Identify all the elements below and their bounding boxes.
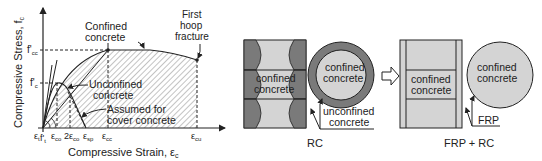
x-axis-label: Compressive Strain, εc: [68, 146, 179, 159]
label-unconfined-2: concrete: [93, 89, 133, 101]
tick-ecu: εcu: [191, 131, 201, 142]
tick-fc: f'c: [30, 77, 38, 89]
label-fracture: fracture: [175, 31, 209, 42]
frp-callout: FRP: [478, 114, 499, 126]
frp-rc-diagram: confined concrete confined concrete FRP …: [400, 40, 533, 149]
label-confined-2: concrete: [85, 31, 125, 43]
tick-ecc: εcc: [102, 131, 112, 142]
label-hoop: hoop: [180, 20, 203, 31]
tick-ft: f't: [40, 133, 46, 144]
tick-esp: εsp: [83, 131, 94, 142]
tick-fcc: f'cc: [27, 44, 38, 56]
transform-arrow-icon: [382, 67, 399, 85]
frp-label: FRP + RC: [444, 137, 494, 149]
stress-strain-chart: Compressive Stress, fc Compressive Strai…: [12, 8, 225, 159]
tick-2eco: 2εco: [64, 131, 80, 142]
frp-inner-2: concrete: [411, 84, 451, 96]
rc-label: RC: [307, 137, 323, 149]
rc-callout-2: concrete: [329, 116, 369, 128]
frp-circle-2: concrete: [477, 72, 517, 84]
label-first: First: [182, 9, 202, 20]
label-cover: cover concrete: [107, 114, 176, 126]
rc-circle-2: concrete: [323, 72, 363, 84]
rc-diagram: confined concrete confined concrete unco…: [244, 40, 375, 149]
y-axis-label: Compressive Stress, fc: [12, 16, 25, 128]
tick-eco: εco: [51, 131, 62, 142]
rc-inner-2: concrete: [254, 83, 294, 95]
figure: Compressive Stress, fc Compressive Strai…: [0, 0, 542, 161]
